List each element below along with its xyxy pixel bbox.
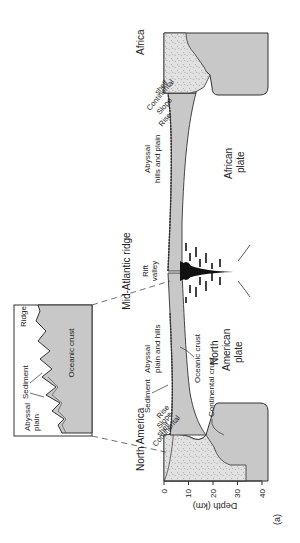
label-african-plate: plate bbox=[235, 151, 246, 173]
label-american: American bbox=[221, 329, 232, 371]
label-left-plain-hills: plain and hills bbox=[153, 325, 162, 373]
label-right-abyssal: Abyssal bbox=[143, 145, 152, 173]
axis-tick-20: 20 bbox=[209, 488, 218, 497]
rift-magma-plume bbox=[180, 243, 234, 303]
label-rift: Rift bbox=[141, 264, 150, 277]
inset-label-oceanic-crust: Oceanic crust bbox=[67, 328, 76, 378]
axis-tick-30: 30 bbox=[233, 488, 242, 497]
label-left-abyssal: Abyssal bbox=[143, 345, 152, 373]
label-north: North bbox=[209, 341, 220, 365]
inset-label-sediment: Sediment bbox=[21, 364, 30, 399]
axis-label: Depth (km) bbox=[193, 501, 238, 511]
oceanic-crust-right bbox=[168, 93, 196, 271]
atlantic-cross-section: 0 10 20 30 40 Depth (km) (a) North Ameri… bbox=[0, 0, 300, 543]
african-continent bbox=[164, 33, 268, 95]
label-valley: valley bbox=[150, 261, 159, 281]
inset-label-abyssal: Abyssal bbox=[23, 403, 32, 431]
inset-label-plain: plain bbox=[32, 414, 41, 431]
axis-tick-40: 40 bbox=[258, 488, 267, 497]
diagram-stage: 0 10 20 30 40 Depth (km) (a) North Ameri… bbox=[0, 0, 300, 543]
inset-label-ridge: Ridge bbox=[19, 306, 28, 327]
panel-label: (a) bbox=[272, 514, 282, 525]
label-mid-atlantic-ridge: Mid-Atlantic ridge bbox=[121, 232, 132, 310]
flow-arrow-left bbox=[238, 281, 250, 297]
label-continental-crust: Continental crust bbox=[207, 356, 216, 417]
label-africa: Africa bbox=[135, 29, 146, 55]
label-na-plate: plate bbox=[233, 341, 244, 363]
label-north-america: North America bbox=[135, 407, 146, 471]
axis-tick-0: 0 bbox=[160, 488, 169, 493]
sediment-pointer bbox=[152, 385, 168, 393]
depth-axis bbox=[164, 481, 262, 485]
axis-tick-10: 10 bbox=[184, 488, 193, 497]
label-left-sediment: Sediment bbox=[143, 378, 152, 413]
label-right-hills-plain: hills and plain bbox=[153, 135, 162, 183]
label-oceanic-crust: Oceanic crust bbox=[193, 333, 202, 383]
flow-arrow-right bbox=[238, 245, 250, 261]
label-african: African bbox=[223, 148, 234, 179]
